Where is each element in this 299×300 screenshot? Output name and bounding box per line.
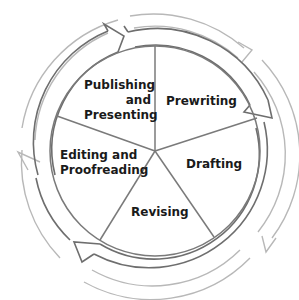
editing-line-2: Proofreading	[60, 163, 137, 178]
writing-cycle-diagram	[0, 0, 299, 300]
stage-label-prewriting: Prewriting	[166, 94, 237, 109]
stage-label-drafting: Drafting	[186, 157, 242, 172]
revising-text: Revising	[131, 205, 189, 219]
editing-line-1: Editing and	[60, 148, 137, 163]
stage-label-publishing: Publishing and Presenting	[84, 78, 151, 123]
stage-label-editing: Editing and Proofreading	[60, 148, 137, 178]
publishing-line-3: Presenting	[84, 108, 151, 123]
publishing-line-1: Publishing	[84, 78, 151, 93]
prewriting-text: Prewriting	[166, 94, 237, 108]
publishing-line-2: and	[84, 93, 151, 108]
stage-label-revising: Revising	[131, 205, 189, 220]
drafting-text: Drafting	[186, 157, 242, 171]
